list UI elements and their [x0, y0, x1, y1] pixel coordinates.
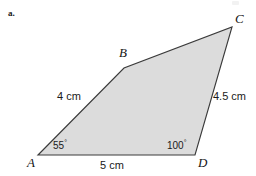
degree-symbol-a: ° [64, 139, 67, 146]
angle-label-d: 100° [167, 141, 187, 151]
quadrilateral-figure [0, 0, 256, 176]
side-length-label-ad: 5 cm [100, 160, 124, 171]
angle-value-a: 55 [53, 140, 64, 151]
figure-page: a. A B C D 4 cm 4.5 cm 5 cm 55° 100° [0, 0, 256, 176]
item-marker: a. [8, 9, 15, 18]
angle-value-d: 100 [167, 140, 184, 151]
side-length-label-cd: 4.5 cm [213, 91, 246, 102]
vertex-label-a: A [27, 156, 35, 169]
side-length-label-ab: 4 cm [57, 91, 81, 102]
vertex-label-d: D [198, 156, 207, 169]
vertex-label-c: C [235, 12, 244, 25]
angle-label-a: 55° [53, 141, 67, 151]
vertex-label-b: B [119, 46, 127, 59]
degree-symbol-d: ° [184, 139, 187, 146]
corner-artifact [232, 1, 239, 5]
